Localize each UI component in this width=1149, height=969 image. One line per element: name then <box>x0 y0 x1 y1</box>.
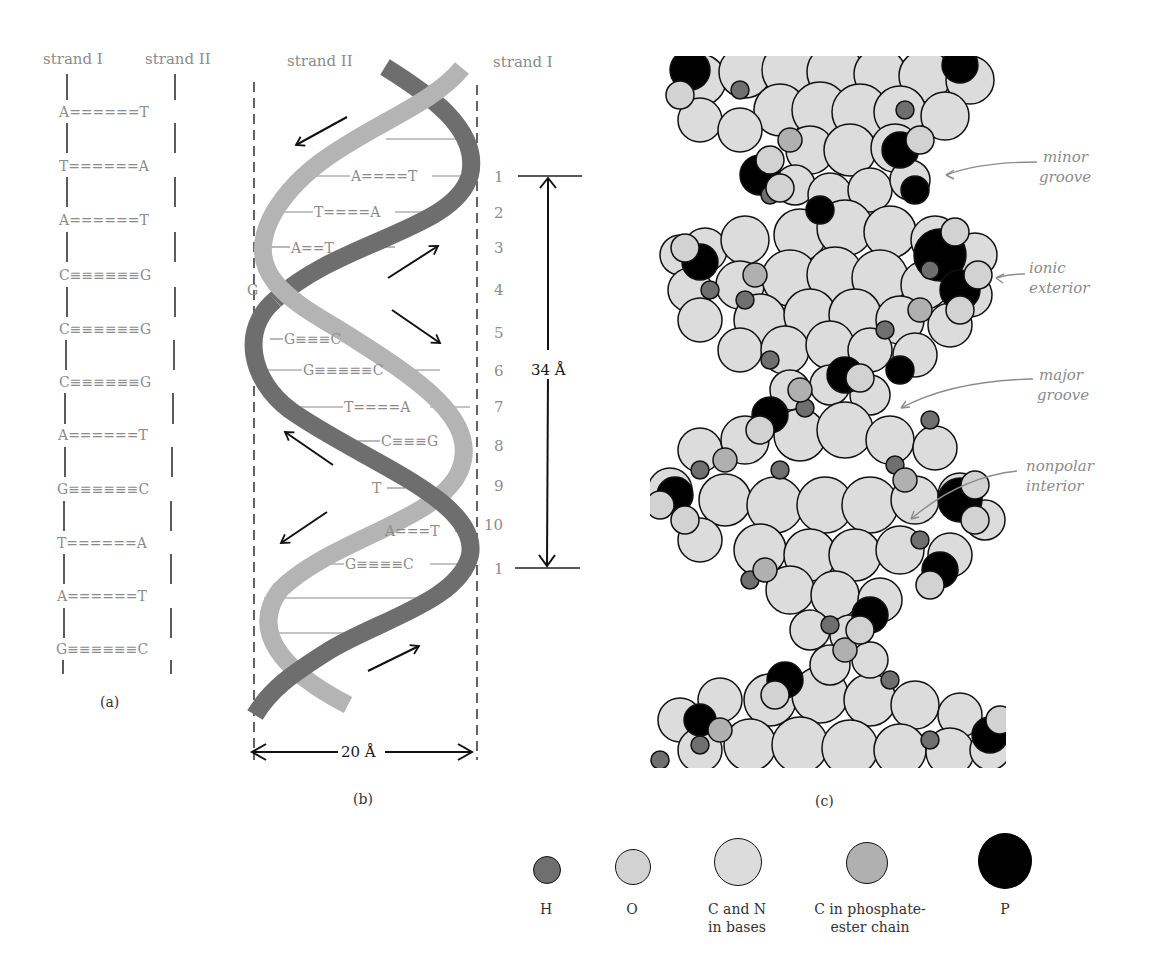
space-filling-model <box>0 0 1149 800</box>
panel-c-caption: (c) <box>815 793 834 809</box>
legend-label-o: O <box>612 900 652 918</box>
annotation-minor-groove: minor groove <box>1041 147 1091 187</box>
legend-label-p: P <box>985 900 1025 918</box>
annotation-major-groove: major groove <box>1037 365 1089 405</box>
hydrogen-atom-icon <box>533 856 561 884</box>
legend-label-c-and-n: C and Nin bases <box>687 900 787 936</box>
phosphorus-atom-icon <box>978 833 1032 889</box>
annotation-nonpolar-interior: nonpolar interior <box>1026 456 1094 496</box>
annotation-ionic-exterior: ionic exterior <box>1029 258 1089 298</box>
legend-label-c-phosphate: C in phosphate-ester chain <box>800 900 940 936</box>
carbon-phosphate-chain-atom-icon <box>846 842 888 884</box>
carbon-nitrogen-base-atom-icon <box>714 838 762 886</box>
oxygen-atom-icon <box>615 849 651 885</box>
legend-label-h: H <box>526 900 566 918</box>
